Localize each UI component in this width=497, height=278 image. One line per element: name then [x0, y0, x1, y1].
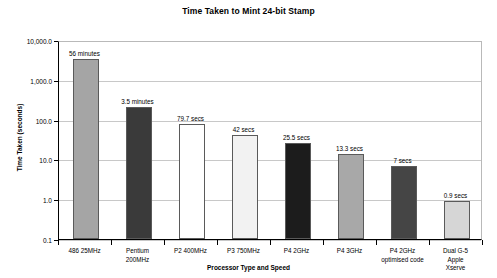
x-axis-title: Processor Type and Speed [0, 264, 497, 271]
y-axis-tick-label: 10,000.0 [0, 38, 52, 45]
plot-area [58, 41, 482, 240]
x-axis-tick-label: Pentium 200MHz [126, 247, 149, 264]
bar-value-label: 7 secs [393, 157, 411, 164]
y-axis-tick-label: 0.1 [0, 237, 52, 244]
x-axis-tick-mark [376, 240, 377, 245]
x-axis-tick-label: P4 2GHz optimised code [381, 247, 423, 264]
x-axis-tick-mark [323, 240, 324, 245]
x-axis-tick-mark [164, 240, 165, 245]
bar-value-label: 3.5 minutes [121, 98, 154, 105]
bar[interactable] [73, 59, 99, 239]
y-axis-tick-label: 1.0 [0, 197, 52, 204]
bar[interactable] [391, 166, 417, 239]
gridline [59, 160, 481, 161]
bar[interactable] [126, 107, 152, 239]
x-axis-tick-mark [217, 240, 218, 245]
x-axis-tick-mark [270, 240, 271, 245]
x-axis-tick-label: 486 25MHz [68, 247, 100, 256]
bar-value-label: 79.7 secs [177, 115, 204, 122]
x-axis-tick-label: P3 750MHz [227, 247, 260, 256]
gridline [59, 121, 481, 122]
bar-value-label: 25.5 secs [283, 134, 310, 141]
x-axis-tick-mark [482, 240, 483, 245]
chart-container: Time Taken to Mint 24-bit Stamp Time Tak… [0, 0, 497, 278]
bar[interactable] [179, 124, 205, 239]
y-axis-tick-label: 10.0 [0, 157, 52, 164]
gridline [59, 81, 481, 82]
y-axis-tick-label: 100.0 [0, 117, 52, 124]
bar-value-label: 0.9 secs [444, 192, 467, 199]
bar[interactable] [444, 201, 470, 239]
x-axis-tick-mark [58, 240, 59, 245]
x-axis-tick-mark [111, 240, 112, 245]
x-axis-tick-label: P4 3GHz [337, 247, 363, 256]
bar-value-label: 56 minutes [69, 50, 100, 57]
bar[interactable] [285, 143, 311, 239]
bar-value-label: 13.3 secs [336, 145, 363, 152]
x-axis-tick-mark [429, 240, 430, 245]
x-axis-tick-label: P2 400MHz [174, 247, 207, 256]
x-axis-tick-label: P4 2GHz [284, 247, 310, 256]
y-axis-tick-label: 1,000.0 [0, 77, 52, 84]
bar[interactable] [232, 135, 258, 239]
bar-value-label: 42 secs [233, 126, 255, 133]
gridline [59, 200, 481, 201]
bar[interactable] [338, 154, 364, 239]
